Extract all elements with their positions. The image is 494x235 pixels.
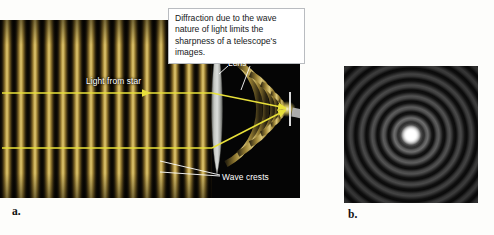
callout-textbox: Diffraction due to the wave nature of li…: [168, 8, 305, 64]
panel-b-diffraction-pattern: [344, 66, 478, 203]
airy-central-disk: [398, 122, 424, 148]
label-lens: Lens: [228, 58, 247, 68]
transition-arrow: [292, 112, 300, 150]
wave-crests-leader-lines: [160, 161, 220, 176]
label-wave-crests: Wave crests: [222, 172, 269, 182]
light-rays: [2, 93, 286, 148]
label-light-from-star: Light from star: [86, 76, 141, 86]
figure-label-a: a.: [12, 205, 21, 217]
converging-wave-crests: [226, 54, 285, 164]
figure-canvas: Diffraction due to the wave nature of li…: [0, 0, 494, 235]
figure-label-b: b.: [348, 208, 357, 220]
